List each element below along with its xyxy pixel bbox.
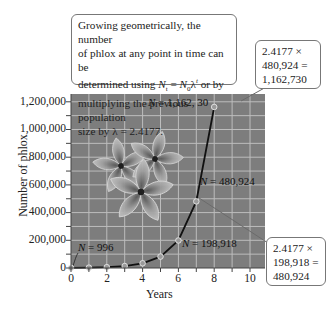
point-label-year6: N = 198,918 <box>182 237 237 249</box>
x-tick-label: 10 <box>242 272 258 284</box>
annotation-line: size by λ = 2.4177. <box>78 124 230 138</box>
y-tick-label: 600,000 <box>29 178 66 190</box>
annotation-calc-year7: 2.4177 × 198,918 = 480,924 <box>266 237 326 286</box>
data-point-marker <box>140 260 146 266</box>
annotation-calc-year8: 2.4177 × 480,924 = 1,162,730 <box>255 40 321 89</box>
annotation-line: multiplying the previous population <box>78 96 230 124</box>
annotation-line: 2.4177 × <box>273 241 319 255</box>
annotation-line: 1,162,730 <box>262 72 314 86</box>
x-tick-label: 2 <box>99 272 115 284</box>
annotation-line: 480,924 = <box>262 58 314 72</box>
x-tick-label: 4 <box>134 272 150 284</box>
annotation-line: Growing geometrically, the number <box>78 18 230 46</box>
annotation-text: determined using <box>78 78 158 90</box>
point-value: = 996 <box>85 241 113 253</box>
annotation-line: 480,924 <box>273 269 319 283</box>
y-tick-label: 1,200,000 <box>20 95 66 107</box>
annotation-line: of phlox at any point in time can be <box>78 46 230 74</box>
x-tick-label: 6 <box>170 272 186 284</box>
annotation-line: 2.4177 × <box>262 44 314 58</box>
data-point-marker <box>158 254 164 260</box>
y-tick-label: 400,000 <box>29 205 66 217</box>
x-axis-title: Years <box>146 287 173 302</box>
n996-leader <box>73 253 78 266</box>
x-tick-label: 8 <box>206 272 222 284</box>
data-point-marker <box>194 199 200 205</box>
annotation-line: determined using Nt = N0λt or by <box>78 74 230 96</box>
y-tick-label: 800,000 <box>29 150 66 162</box>
formula: Nt = N0λt <box>158 78 198 90</box>
point-label-year0: N = 996 <box>78 241 114 253</box>
data-point-marker <box>176 238 182 244</box>
point-value: = 480,924 <box>207 175 254 187</box>
y-axis-title: Number of phlox <box>16 121 31 231</box>
point-label-year7: N = 480,924 <box>200 175 255 187</box>
y-tick-label: 200,000 <box>29 233 66 245</box>
phlox-flower-illustration <box>88 124 191 225</box>
annotation-line: 198,918 = <box>273 255 319 269</box>
annotation-geometric-growth: Growing geometrically, the number of phl… <box>71 14 237 85</box>
annotation-text: or by <box>198 78 224 90</box>
point-value: = 198,918 <box>189 237 236 249</box>
x-tick-label: 0 <box>63 272 79 284</box>
